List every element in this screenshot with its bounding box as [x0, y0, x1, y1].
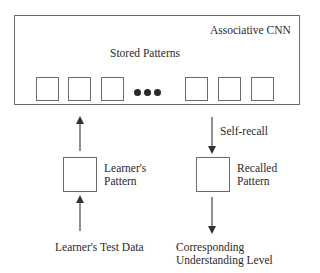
recalled-pattern-label-2: Pattern: [237, 175, 270, 188]
self-recall-label: Self-recall: [220, 125, 268, 138]
recalled-pattern-box: [196, 157, 230, 192]
learner-test-data-label: Learner's Test Data: [55, 241, 144, 254]
learner-pattern-label-1: Learner's: [104, 162, 146, 175]
learner-pattern-label-2: Pattern: [104, 175, 137, 188]
understanding-level-label-1: Corresponding: [176, 241, 244, 254]
learner-pattern-box: [63, 157, 97, 192]
recalled-pattern-label-1: Recalled: [237, 162, 277, 175]
understanding-level-label-2: Understanding Level: [176, 254, 273, 267]
